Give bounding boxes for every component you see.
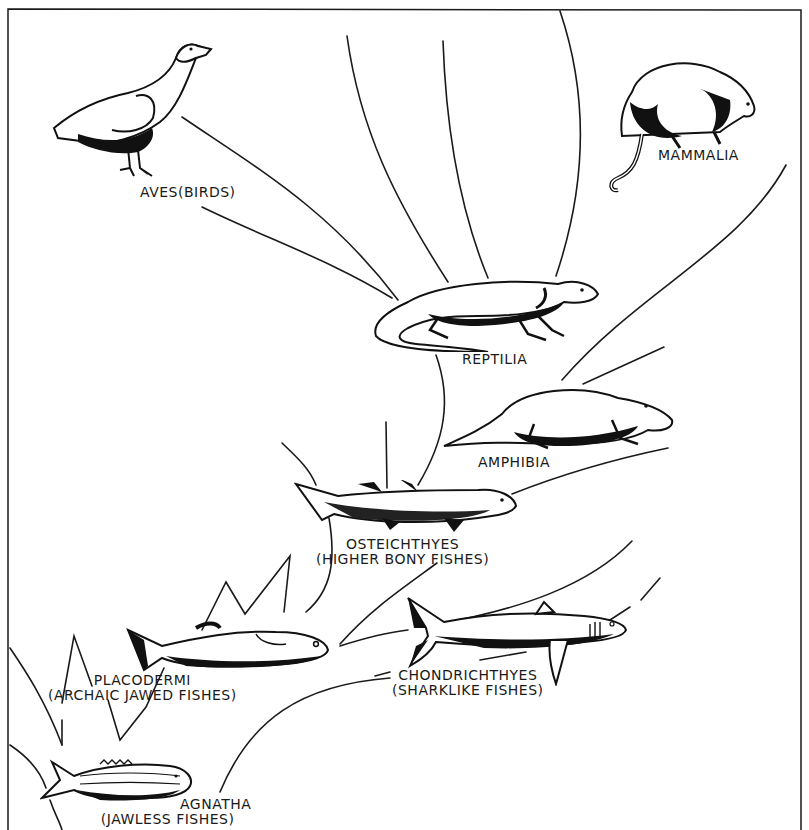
taxon-name: REPTILIA <box>462 351 527 367</box>
taxon-common-name: (JAWLESS FISHES) <box>84 812 251 827</box>
label-chondrichthyes: CHONDRICHTHYES (SHARKLIKE FISHES) <box>392 668 544 698</box>
taxon-common-name: (ARCHAIC JAWED FISHES) <box>48 688 237 703</box>
taxon-name: AMPHIBIA <box>478 454 550 470</box>
amphibian-icon <box>442 384 682 464</box>
label-osteichthyes: OSTEICHTHYES (HIGHER BONY FISHES) <box>316 537 489 567</box>
label-aves: AVES(BIRDS) <box>140 185 236 200</box>
taxon-name: PLACODERMI <box>48 673 237 688</box>
label-amphibia: AMPHIBIA <box>478 455 550 470</box>
taxon-name: AGNATHA <box>84 797 251 812</box>
taxon-name: CHONDRICHTHYES <box>392 668 544 683</box>
bony-fish-icon <box>294 480 524 540</box>
label-reptilia: REPTILIA <box>462 352 527 367</box>
taxon-name: OSTEICHTHYES <box>316 537 489 552</box>
label-agnatha: AGNATHA (JAWLESS FISHES) <box>84 797 251 827</box>
label-mammalia: MAMMALIA <box>658 148 739 163</box>
lizard-icon <box>368 272 608 352</box>
placoderm-icon <box>126 620 336 676</box>
label-placodermi: PLACODERMI (ARCHAIC JAWED FISHES) <box>48 673 237 703</box>
taxon-name: MAMMALIA <box>658 147 739 163</box>
bird-icon <box>48 38 218 188</box>
opossum-icon <box>602 52 762 212</box>
evolution-diagram: AVES(BIRDS) MAMMALIA REPTILIA AMPHIBIA O… <box>0 0 809 830</box>
taxon-common-name: (HIGHER BONY FISHES) <box>316 552 489 567</box>
taxon-common-name: (SHARKLIKE FISHES) <box>392 683 544 698</box>
taxon-name: AVES(BIRDS) <box>140 184 236 200</box>
